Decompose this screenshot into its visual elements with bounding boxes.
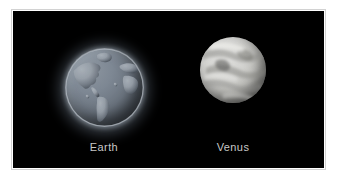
- space-background-panel: Earth: [13, 11, 324, 168]
- earth-label: Earth: [44, 141, 164, 153]
- planet-comparison-figure: Earth: [0, 0, 337, 181]
- planet-earth: Earth: [44, 29, 164, 159]
- venus-cloud-bands-icon: [200, 37, 266, 103]
- planet-venus: Venus: [173, 29, 293, 159]
- venus-sphere: [200, 37, 266, 103]
- earth-limb-highlight: [65, 48, 144, 127]
- venus-label: Venus: [173, 141, 293, 153]
